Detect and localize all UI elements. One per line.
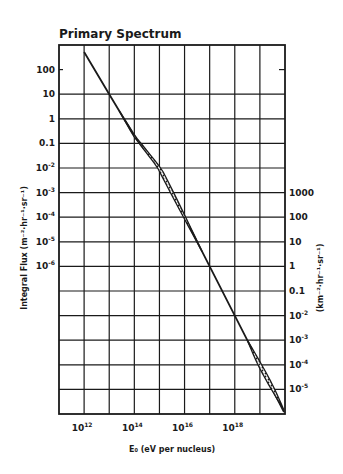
y-right-tick-label: 1000 [289,188,314,198]
y-right-tick-label: 0.1 [289,286,305,296]
y-left-tick-label: 0.1 [39,138,55,148]
y-axis-left-label: Integral Flux (m⁻²·hr⁻¹·sr⁻¹) [20,186,29,310]
x-tick-label: 1014 [122,421,143,433]
y-axis-right-label: (km⁻²·hr⁻¹·sr⁻¹) [316,244,325,313]
y-axis-right-ticks: 10001001010.110-210-310-410-5 [289,188,314,395]
uncertainty-band [247,340,283,409]
primary-spectrum-chart: Primary Spectrum 1001010.110-210-310-410… [0,0,343,474]
y-right-tick-label: 10 [289,237,302,247]
x-tick-label: 1012 [72,421,93,433]
x-axis-label: E₀ (eV per nucleus) [129,445,215,454]
x-tick-label: 1016 [172,421,193,433]
y-left-tick-label: 1 [49,114,55,124]
y-right-tick-label: 1 [289,261,295,271]
y-axis-left-ticks: 1001010.110-210-310-410-510-6 [36,65,55,272]
y-right-tick-label: 10-4 [289,358,308,370]
chart-title: Primary Spectrum [59,27,182,41]
y-left-tick-label: 100 [36,65,55,75]
y-right-tick-label: 10-3 [289,333,308,345]
plot-grid [59,45,285,414]
uncertainty-band [119,111,202,252]
y-left-tick-label: 10 [42,89,55,99]
y-right-tick-label: 10-2 [289,309,308,321]
y-left-tick-label: 10-4 [36,210,55,222]
x-axis-ticks: 1012101410161018 [72,421,244,433]
y-left-tick-label: 10-5 [36,235,55,247]
x-tick-label: 1018 [222,421,243,433]
y-left-tick-label: 10-2 [36,161,55,173]
y-right-tick-label: 10-5 [289,382,308,394]
plot-frame [59,45,285,414]
y-left-tick-label: 10-6 [36,259,55,271]
y-left-tick-label: 10-3 [36,186,55,198]
y-right-tick-label: 100 [289,212,308,222]
